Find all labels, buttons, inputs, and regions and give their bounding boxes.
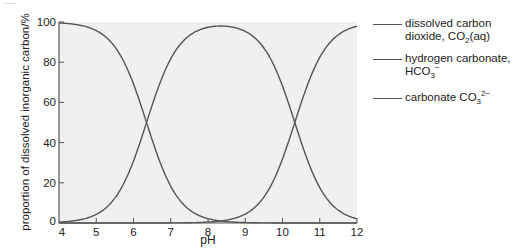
- legend-item-hco3: hydrogen carbonate, HCO3−: [373, 52, 511, 78]
- y-tick-label: 20: [43, 177, 56, 189]
- y-tick-label: 40: [43, 137, 56, 149]
- y-tick-label: 100: [37, 16, 56, 28]
- legend-line-icon: [373, 24, 402, 25]
- y-tick-label: 0: [50, 215, 56, 227]
- y-tick-label: 80: [43, 56, 56, 68]
- x-axis-label: pH: [200, 233, 215, 247]
- legend-label: hydrogen carbonate, HCO3−: [405, 52, 511, 78]
- legend-label: dissolved carbon dioxide, CO2(aq): [405, 17, 491, 43]
- legend-line-icon: [373, 59, 402, 60]
- plot-area: [59, 22, 357, 223]
- x-tick-label: 5: [93, 226, 99, 238]
- x-tick-label: 10: [276, 226, 289, 238]
- y-axis-label: proportion of dissolved inorganic carbon…: [19, 13, 31, 230]
- legend-item-co2: dissolved carbon dioxide, CO2(aq): [373, 17, 491, 43]
- x-tick-label: 9: [242, 226, 248, 238]
- x-tick-label: 6: [130, 226, 136, 238]
- x-tick-label: 12: [351, 226, 364, 238]
- x-tick-label: 4: [59, 226, 66, 238]
- x-tick-label: 7: [168, 226, 174, 238]
- legend-line-icon: [373, 98, 402, 99]
- x-tick-label: 11: [314, 226, 326, 238]
- legend-item-co3: carbonate CO32−: [373, 91, 490, 104]
- legend-label: carbonate CO32−: [405, 91, 490, 104]
- y-tick-label: 60: [43, 96, 56, 108]
